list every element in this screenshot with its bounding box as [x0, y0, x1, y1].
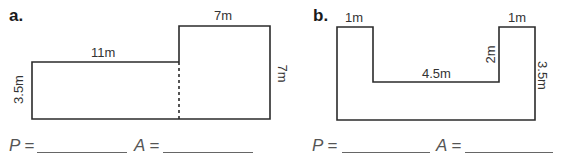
label-b-1m-left: 1m: [345, 11, 363, 24]
perimeter-symbol: P: [9, 136, 20, 155]
label-b-3-5m: 3.5m: [536, 61, 549, 90]
label-a-7m-top: 7m: [214, 9, 232, 22]
answer-b-perimeter: P =: [312, 136, 337, 156]
equals-sign: =: [451, 136, 461, 155]
area-symbol: A: [436, 136, 447, 155]
equals-sign: =: [24, 136, 34, 155]
answer-b-area: A =: [436, 136, 461, 156]
problem-b-letter: b.: [313, 6, 328, 26]
answer-b-perimeter-blank[interactable]: [342, 152, 430, 153]
perimeter-symbol: P: [312, 136, 323, 155]
shape-a: [32, 26, 270, 119]
label-b-1m-right: 1m: [508, 11, 526, 24]
label-b-4-5m: 4.5m: [422, 67, 451, 80]
label-a-3-5m: 3.5m: [12, 75, 25, 104]
label-a-11m: 11m: [91, 46, 115, 59]
area-symbol: A: [134, 136, 145, 155]
label-b-2m: 2m: [484, 45, 497, 63]
answer-a-area: A =: [134, 136, 159, 156]
answer-a-area-blank[interactable]: [163, 152, 253, 153]
answer-a-perimeter-blank[interactable]: [37, 152, 127, 153]
equals-sign: =: [149, 136, 159, 155]
problem-a-letter: a.: [9, 6, 23, 26]
answer-a-perimeter: P =: [9, 136, 34, 156]
shape-a-outline: [32, 26, 270, 119]
equals-sign: =: [327, 136, 337, 155]
label-a-7m-right: 7m: [276, 64, 289, 82]
answer-b-area-blank[interactable]: [465, 152, 553, 153]
